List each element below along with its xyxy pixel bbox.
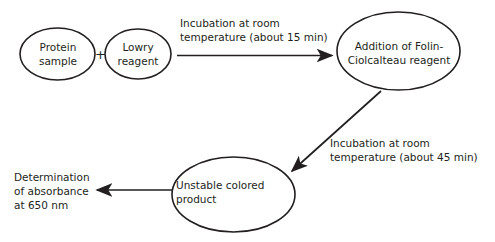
- node-label-protein-sample: Protein sample: [20, 41, 96, 68]
- node-label-unstable-product: Unstable colored product: [176, 179, 292, 206]
- edge-label-incubation-15: Incubation at room temperature (about 15…: [180, 16, 336, 44]
- node-label-folin-addition: Addition of Folin- Ciolcalteau reagent: [339, 40, 459, 67]
- edge-label-absorbance: Determination of absorbance at 650 nm: [14, 170, 94, 212]
- edge-label-incubation-45: Incubation at room temperature (about 45…: [330, 136, 495, 164]
- diagram-canvas: Protein sample + Lowry reagent Addition …: [0, 0, 495, 242]
- node-label-lowry-reagent: Lowry reagent: [105, 41, 171, 68]
